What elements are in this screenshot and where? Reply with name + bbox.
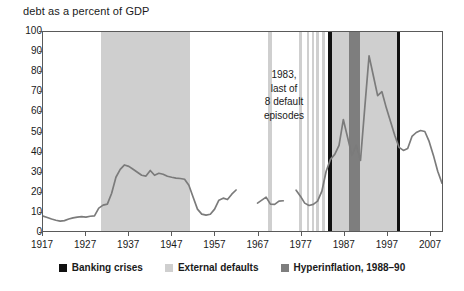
debt-to-gdp-chart: debt as a percent of GDP 100908070605040… [0, 0, 464, 291]
x-tick-mark [258, 232, 259, 236]
debt-series-line [43, 32, 442, 231]
x-tick-label: 1987 [324, 239, 364, 250]
x-tick-mark [214, 232, 215, 236]
legend-item: External defaults [165, 262, 259, 273]
x-tick-mark [42, 232, 43, 236]
annotation-line: last of [241, 82, 327, 96]
x-tick-mark [430, 232, 431, 236]
x-tick-mark [387, 232, 388, 236]
annotation-line: 1983, [241, 68, 327, 82]
y-axis: 1009080706050403020100 [8, 31, 42, 232]
plot-area: 1983,last of8 defaultepisodes [42, 31, 443, 232]
x-tick-mark [171, 232, 172, 236]
chart-legend: Banking crisesExternal defaultsHyperinfl… [0, 262, 464, 273]
x-tick-label: 1917 [22, 239, 62, 250]
legend-item: Banking crises [59, 262, 143, 273]
legend-label: Banking crises [72, 262, 143, 273]
annotation-line: episodes [241, 109, 327, 123]
x-tick-label: 1977 [281, 239, 321, 250]
x-tick-mark [128, 232, 129, 236]
chart-title: debt as a percent of GDP [23, 5, 150, 17]
series-segment [43, 165, 236, 221]
x-tick-label: 1937 [108, 239, 148, 250]
annotation-line: 8 default [241, 95, 327, 109]
x-tick-label: 1947 [151, 239, 191, 250]
external-defaults-swatch [165, 264, 173, 272]
series-segment [258, 197, 284, 204]
x-axis: 1917192719371947195719671977198719972007 [42, 232, 443, 258]
x-tick-label: 2007 [410, 239, 450, 250]
default-episodes-annotation: 1983,last of8 defaultepisodes [241, 68, 327, 122]
x-tick-label: 1967 [238, 239, 278, 250]
x-tick-mark [85, 232, 86, 236]
legend-label: Hyperinflation, 1988–90 [294, 262, 406, 273]
x-tick-label: 1997 [367, 239, 407, 250]
hyperinflation-swatch [281, 264, 289, 272]
x-tick-mark [301, 232, 302, 236]
legend-label: External defaults [178, 262, 259, 273]
x-tick-label: 1957 [194, 239, 234, 250]
x-tick-label: 1927 [65, 239, 105, 250]
x-tick-mark [344, 232, 345, 236]
banking-crisis-swatch [59, 264, 67, 272]
legend-item: Hyperinflation, 1988–90 [281, 262, 406, 273]
